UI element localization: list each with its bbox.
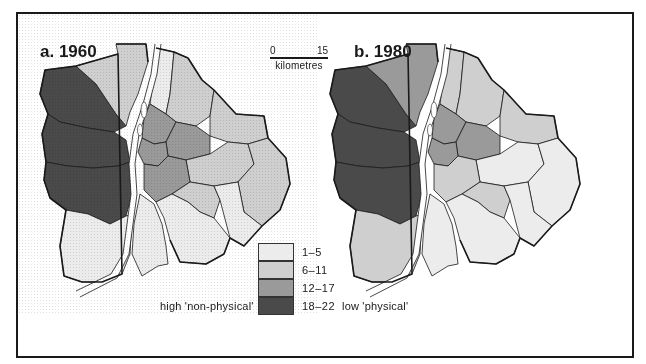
legend-item-1: 1–5 <box>258 243 578 261</box>
island <box>431 102 437 118</box>
figure-frame: a. 1960 b. 1980 0 15 kilometres 1–5 6–11… <box>16 12 634 358</box>
scale-start: 0 <box>270 46 276 56</box>
legend-item-3: 12–17 <box>258 279 578 297</box>
legend-swatch <box>258 297 294 315</box>
region-north-pest <box>456 52 504 126</box>
legend-label: 6–11 <box>302 264 328 276</box>
scale-end: 15 <box>317 46 328 56</box>
legend-swatch <box>258 279 294 297</box>
legend-swatch <box>258 243 294 261</box>
region-northeast <box>210 90 268 144</box>
scale-unit: kilometres <box>270 60 328 72</box>
legend-item-4: 18–22 low 'physical' <box>258 297 578 315</box>
legend-label: 18–22 <box>302 300 335 312</box>
legend-high-label: high 'non-physical' <box>160 300 254 312</box>
legend-label: 1–5 <box>302 246 322 258</box>
region-north-pest <box>166 52 214 126</box>
scale-bar: 0 15 kilometres <box>270 46 328 72</box>
island <box>141 102 147 118</box>
legend-label: 12–17 <box>302 282 335 294</box>
map-title-1960: a. 1960 <box>40 42 97 62</box>
island <box>138 124 143 136</box>
scale-line <box>270 57 328 59</box>
legend-swatch <box>258 261 294 279</box>
legend-low-label: low 'physical' <box>342 300 408 312</box>
island <box>428 124 433 136</box>
map-title-1980: b. 1980 <box>354 42 412 62</box>
region-northeast <box>500 90 558 144</box>
legend-item-2: 6–11 <box>258 261 578 279</box>
